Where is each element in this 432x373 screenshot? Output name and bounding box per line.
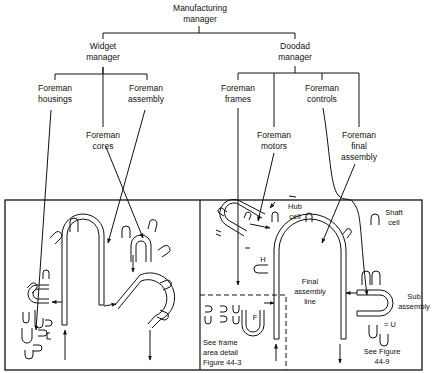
- foreman-frames-line1: Foreman: [208, 83, 268, 94]
- doodad-manager-line1: Doodad: [265, 41, 325, 52]
- foreman-final-assembly-line2: final: [329, 141, 389, 152]
- doodad-manager-line2: manager: [265, 52, 325, 63]
- manufacturing-manager-box: Manufacturing manager: [160, 3, 240, 25]
- diagram-lines: [0, 0, 432, 373]
- doodad-manager-box: Doodad manager: [265, 41, 325, 63]
- hub-cell-label: Hub cell: [283, 202, 307, 222]
- foreman-cores-line1: Foreman: [73, 130, 133, 141]
- foreman-motors-line1: Foreman: [244, 130, 304, 141]
- hub-cell-line1: Hub: [283, 202, 307, 212]
- foreman-motors-line2: motors: [244, 141, 304, 152]
- hub-cell-line2: cell: [283, 212, 307, 222]
- sub-assembly-line1: Sub: [396, 292, 432, 302]
- widget-manager-line2: manager: [73, 52, 133, 63]
- foreman-final-assembly-box: Foreman final assembly: [329, 130, 389, 163]
- foreman-controls-line1: Foreman: [292, 83, 352, 94]
- foreman-housings-line1: Foreman: [25, 83, 85, 94]
- foreman-frames-box: Foreman frames: [208, 83, 268, 105]
- foreman-assembly-line2: assembly: [116, 94, 176, 105]
- foreman-final-assembly-line1: Foreman: [329, 130, 389, 141]
- widget-manager-box: Widget manager: [73, 41, 133, 63]
- frame-note-line2: area detail: [203, 348, 251, 358]
- manufacturing-manager-line2: manager: [160, 14, 240, 25]
- final-assembly-line-label: Final assembly line: [290, 277, 330, 307]
- foreman-frames-line2: frames: [208, 94, 268, 105]
- foreman-cores-box: Foreman cores: [73, 130, 133, 152]
- equals-u-label: = U: [380, 320, 400, 330]
- final-line-line2: assembly: [290, 287, 330, 297]
- see-figure-note: See Figure 44-9: [360, 347, 404, 367]
- shaft-cell-line2: cell: [380, 218, 408, 228]
- foreman-controls-box: Foreman controls: [292, 83, 352, 105]
- foreman-controls-line2: controls: [292, 94, 352, 105]
- diagram-root: Manufacturing manager Widget manager Doo…: [0, 0, 432, 373]
- final-line-line1: Final: [290, 277, 330, 287]
- foreman-final-assembly-line3: assembly: [329, 152, 389, 163]
- figure-note-line1: See Figure: [360, 347, 404, 357]
- foreman-housings-box: Foreman housings: [25, 83, 85, 105]
- figure-note-line2: 44-9: [360, 357, 404, 367]
- frame-area-note: See frame area detail Figure 44-3: [203, 338, 251, 368]
- sub-assembly-label: Sub assembly: [396, 292, 432, 312]
- frame-note-line3: Figure 44-3: [203, 358, 251, 368]
- foreman-assembly-box: Foreman assembly: [116, 83, 176, 105]
- f-cell-label: F: [250, 313, 260, 323]
- h-cell-label: H: [258, 255, 268, 265]
- shaft-cell-line1: Shaft: [380, 208, 408, 218]
- manufacturing-manager-line1: Manufacturing: [160, 3, 240, 14]
- foreman-motors-box: Foreman motors: [244, 130, 304, 152]
- shaft-cell-label: Shaft cell: [380, 208, 408, 228]
- frame-note-line1: See frame: [203, 338, 251, 348]
- widget-manager-line1: Widget: [73, 41, 133, 52]
- sub-assembly-line2: assembly: [396, 302, 432, 312]
- foreman-assembly-line1: Foreman: [116, 83, 176, 94]
- final-line-line3: line: [290, 297, 330, 307]
- foreman-cores-line2: cores: [73, 141, 133, 152]
- foreman-housings-line2: housings: [25, 94, 85, 105]
